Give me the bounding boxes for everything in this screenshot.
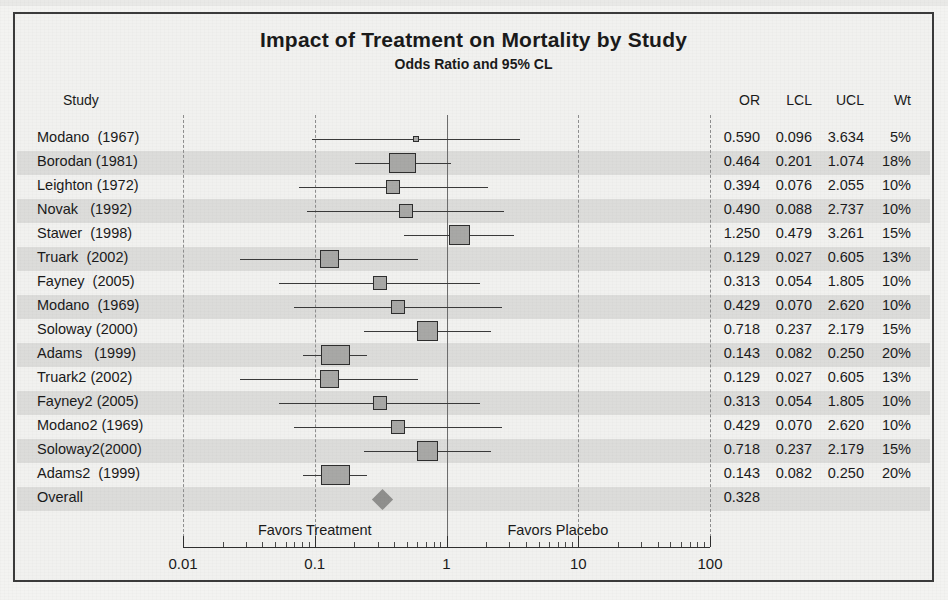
column-header-study: Study: [63, 92, 99, 108]
axis-minor-tick: [549, 542, 550, 547]
axis-minor-tick: [309, 542, 310, 547]
cell-or: 1.250: [724, 225, 760, 241]
axis-minor-tick: [262, 542, 263, 547]
cell-wt: 10%: [882, 273, 911, 289]
effect-size-marker: [391, 420, 405, 434]
axis-minor-tick: [526, 542, 527, 547]
cell-lcl: 0.082: [776, 345, 812, 361]
cell-lcl: 0.054: [776, 273, 812, 289]
cell-lcl: 0.237: [776, 441, 812, 457]
cell-or: 0.129: [724, 249, 760, 265]
study-label: Truark (2002): [37, 249, 128, 265]
effect-size-marker: [321, 465, 350, 485]
column-header-wt: Wt: [894, 92, 911, 108]
cell-or: 0.313: [724, 393, 760, 409]
axis-major-tick: [183, 536, 184, 547]
forest-plot: Impact of Treatment on Mortality by Stud…: [15, 14, 932, 580]
study-label: Adams2 (1999): [37, 465, 140, 481]
axis-minor-tick: [417, 542, 418, 547]
cell-or: 0.718: [724, 441, 760, 457]
effect-size-marker: [413, 136, 419, 142]
cell-or: 0.590: [724, 129, 760, 145]
column-header-lcl: LCL: [786, 92, 812, 108]
axis-minor-tick: [426, 542, 427, 547]
axis-minor-tick: [394, 542, 395, 547]
cell-ucl: 2.055: [828, 177, 864, 193]
cell-lcl: 0.237: [776, 321, 812, 337]
cell-lcl: 0.070: [776, 417, 812, 433]
effect-size-marker: [417, 321, 439, 341]
study-label: Adams (1999): [37, 345, 136, 361]
cell-ucl: 0.605: [828, 369, 864, 385]
study-label: Soloway2(2000): [37, 441, 142, 457]
effect-size-marker: [320, 250, 338, 268]
axis-minor-tick: [681, 542, 682, 547]
axis-tick-label: 100: [670, 555, 750, 572]
cell-wt: 10%: [882, 177, 911, 193]
study-label: Leighton (1972): [37, 177, 139, 193]
study-label: Truark2 (2002): [37, 369, 132, 385]
axis-minor-tick: [539, 542, 540, 547]
cell-ucl: 3.634: [828, 129, 864, 145]
axis-minor-tick: [294, 542, 295, 547]
study-label: Soloway (2000): [37, 321, 138, 337]
effect-size-marker: [320, 370, 338, 388]
effect-size-marker: [389, 153, 415, 173]
column-header-or: OR: [739, 92, 760, 108]
study-label: Stawer (1998): [37, 225, 132, 241]
axis-minor-tick: [690, 542, 691, 547]
cell-lcl: 0.201: [776, 153, 812, 169]
cell-wt: 13%: [882, 249, 911, 265]
axis-minor-tick: [641, 542, 642, 547]
axis-minor-tick: [565, 542, 566, 547]
cell-wt: 15%: [882, 441, 911, 457]
cell-lcl: 0.479: [776, 225, 812, 241]
study-label: Fayney2 (2005): [37, 393, 139, 409]
cell-ucl: 1.805: [828, 393, 864, 409]
axis-minor-tick: [670, 542, 671, 547]
cell-lcl: 0.027: [776, 249, 812, 265]
cell-or: 0.429: [724, 417, 760, 433]
axis-minor-tick: [658, 542, 659, 547]
axis-minor-tick: [286, 542, 287, 547]
cell-lcl: 0.070: [776, 297, 812, 313]
cell-lcl: 0.088: [776, 201, 812, 217]
axis-minor-tick: [354, 542, 355, 547]
gridline: [183, 115, 184, 547]
study-label: Overall: [37, 489, 83, 505]
cell-ucl: 2.737: [828, 201, 864, 217]
cell-or: 0.490: [724, 201, 760, 217]
chart-frame: Impact of Treatment on Mortality by Stud…: [13, 12, 934, 582]
axis-minor-tick: [558, 542, 559, 547]
axis-minor-tick: [407, 542, 408, 547]
favors-treatment-label: Favors Treatment: [225, 522, 405, 538]
axis-tick-label: 0.1: [275, 555, 355, 572]
study-label: Modano (1967): [37, 129, 139, 145]
cell-or: 0.464: [724, 153, 760, 169]
cell-or: 0.143: [724, 345, 760, 361]
column-header-ucl: UCL: [836, 92, 864, 108]
axis-minor-tick: [704, 542, 705, 547]
cell-wt: 10%: [882, 201, 911, 217]
cell-wt: 15%: [882, 321, 911, 337]
cell-ucl: 3.261: [828, 225, 864, 241]
study-label: Novak (1992): [37, 201, 132, 217]
study-label: Borodan (1981): [37, 153, 138, 169]
cell-or: 0.429: [724, 297, 760, 313]
cell-ucl: 0.250: [828, 465, 864, 481]
axis-line: [183, 547, 710, 548]
effect-size-marker: [417, 441, 439, 461]
gridline: [710, 115, 711, 547]
cell-or: 0.394: [724, 177, 760, 193]
effect-size-marker: [386, 180, 400, 194]
effect-size-marker: [449, 225, 471, 245]
cell-or: 0.718: [724, 321, 760, 337]
row-band: [17, 487, 930, 511]
axis-tick-label: 10: [538, 555, 618, 572]
gridline: [315, 115, 316, 547]
axis-minor-tick: [434, 542, 435, 547]
cell-wt: 15%: [882, 225, 911, 241]
cell-lcl: 0.082: [776, 465, 812, 481]
axis-tick-label: 1: [407, 555, 487, 572]
effect-size-marker: [391, 300, 405, 314]
